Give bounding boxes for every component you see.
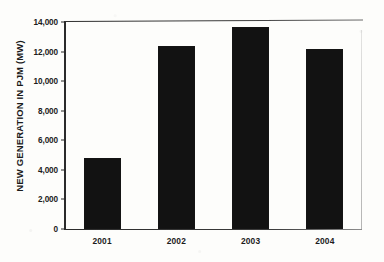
y-axis-tick-mark bbox=[61, 140, 65, 141]
y-axis-tick-mark bbox=[61, 169, 65, 170]
y-axis-tick-mark bbox=[61, 22, 65, 23]
y-axis-tick-labels: 02,0004,0006,0008,00010,00012,00014,000 bbox=[20, 0, 58, 262]
y-axis-tick-mark bbox=[61, 81, 65, 82]
x-axis-tick-label: 2003 bbox=[241, 236, 260, 246]
bar-2002 bbox=[158, 46, 195, 229]
y-axis-tick-label: 10,000 bbox=[20, 77, 58, 86]
y-axis-tick-label: 0 bbox=[20, 225, 58, 234]
bar-2004 bbox=[306, 49, 343, 229]
x-axis-line bbox=[65, 229, 362, 230]
y-axis-tick-mark bbox=[61, 110, 65, 111]
x-axis-tick-label: 2002 bbox=[167, 236, 186, 246]
y-axis-tick-mark bbox=[61, 199, 65, 200]
y-axis-tick-label: 6,000 bbox=[20, 136, 58, 145]
bar-chart-figure: NEW GENERATION IN PJM (MW) 02,0004,0006,… bbox=[0, 0, 384, 262]
y-axis-tick-label: 14,000 bbox=[20, 18, 58, 27]
y-axis-tick-label: 2,000 bbox=[20, 195, 58, 204]
x-axis-tick-label: 2004 bbox=[315, 236, 334, 246]
bar-2001 bbox=[84, 158, 121, 229]
y-axis-tick-mark bbox=[61, 229, 65, 230]
y-axis-tick-label: 8,000 bbox=[20, 106, 58, 115]
bar-2003 bbox=[232, 27, 269, 229]
y-axis-tick-label: 12,000 bbox=[20, 47, 58, 56]
y-axis-tick-label: 4,000 bbox=[20, 165, 58, 174]
plot-area bbox=[65, 22, 362, 229]
x-axis-tick-label: 2001 bbox=[93, 236, 112, 246]
y-axis-tick-mark bbox=[61, 51, 65, 52]
